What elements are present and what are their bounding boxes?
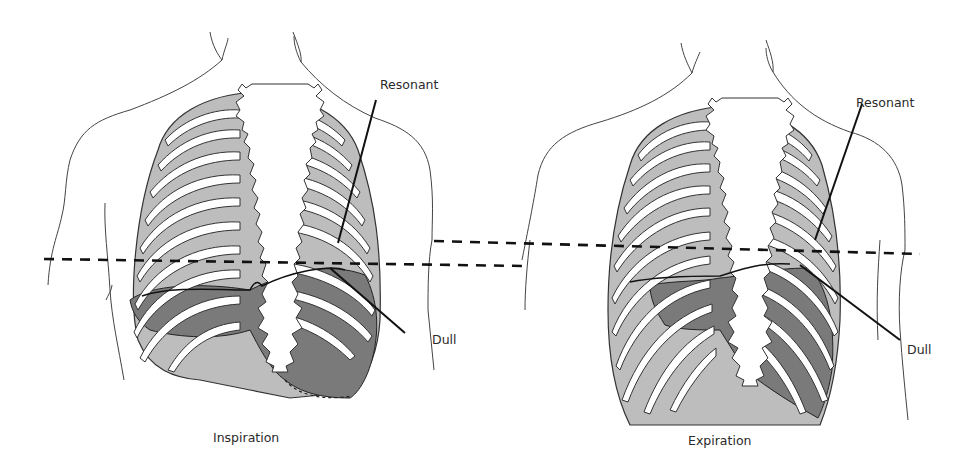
inspiration-resonant-label: Resonant [380,77,438,92]
inspiration-dull-label: Dull [432,332,457,347]
diagram-svg [0,0,975,472]
expiration-caption: Expiration [688,433,751,448]
expiration-panel [522,40,908,425]
inspiration-caption: Inspiration [213,430,279,445]
percussion-diagram: Resonant Dull Inspiration Resonant Dull … [0,0,975,472]
expiration-resonant-label: Resonant [856,95,914,110]
inspiration-panel [48,32,434,398]
expiration-dull-label: Dull [907,342,932,357]
